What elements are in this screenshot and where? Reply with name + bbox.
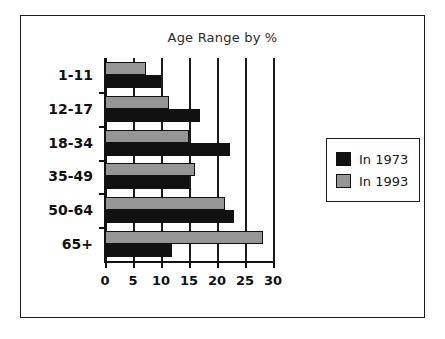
x-tick-30 xyxy=(273,262,275,268)
x-tick-label: 10 xyxy=(152,273,170,288)
bar-group: 50-64 xyxy=(105,193,273,227)
x-tick-label: 30 xyxy=(264,273,282,288)
legend-item: In 1973 xyxy=(336,148,408,170)
plot-area: 051015202530 1-1112-1718-3435-4950-6465+ xyxy=(105,58,273,261)
chart-title: Age Range by % xyxy=(21,30,424,45)
x-tick-10 xyxy=(161,262,163,268)
bar-group: 65+ xyxy=(105,227,273,261)
x-tick-label: 5 xyxy=(128,273,137,288)
y-category-label: 35-49 xyxy=(48,168,93,184)
bar-group: 12-17 xyxy=(105,92,273,126)
bar-1993-1-11 xyxy=(105,62,146,75)
x-tick-15 xyxy=(189,262,191,268)
bar-1973-1-11 xyxy=(105,75,161,88)
y-category-label: 12-17 xyxy=(48,101,93,117)
bar-1973-12-17 xyxy=(105,109,200,122)
bar-1973-65+ xyxy=(105,244,172,257)
x-tick-label: 0 xyxy=(100,273,109,288)
black-swatch xyxy=(336,152,351,166)
y-category-label: 18-34 xyxy=(48,135,93,151)
x-tick-5 xyxy=(133,262,135,268)
legend-label: In 1973 xyxy=(359,152,408,167)
gridline-30 xyxy=(273,58,275,261)
x-tick-label: 15 xyxy=(180,273,198,288)
bar-1993-50-64 xyxy=(105,197,225,210)
bar-1973-50-64 xyxy=(105,210,234,223)
y-category-label: 65+ xyxy=(62,236,93,252)
bar-group: 1-11 xyxy=(105,58,273,92)
bar-1993-65+ xyxy=(105,231,263,244)
x-tick-0 xyxy=(105,262,107,268)
bar-1993-12-17 xyxy=(105,96,169,109)
bar-group: 18-34 xyxy=(105,126,273,160)
y-category-label: 1-11 xyxy=(58,67,93,83)
legend-item: In 1993 xyxy=(336,170,408,192)
chart-legend: In 1973In 1993 xyxy=(326,138,420,202)
x-tick-label: 20 xyxy=(208,273,226,288)
x-tick-25 xyxy=(245,262,247,268)
x-tick-label: 25 xyxy=(236,273,254,288)
legend-label: In 1993 xyxy=(359,174,408,189)
bar-1993-35-49 xyxy=(105,163,195,176)
y-category-label: 50-64 xyxy=(48,202,93,218)
chart-figure: Age Range by % 051015202530 1-1112-1718-… xyxy=(20,15,425,318)
bar-1993-18-34 xyxy=(105,130,189,143)
gray-swatch xyxy=(336,174,351,188)
bar-1973-18-34 xyxy=(105,143,230,156)
bar-group: 35-49 xyxy=(105,160,273,194)
bar-1973-35-49 xyxy=(105,176,189,189)
x-tick-20 xyxy=(217,262,219,268)
